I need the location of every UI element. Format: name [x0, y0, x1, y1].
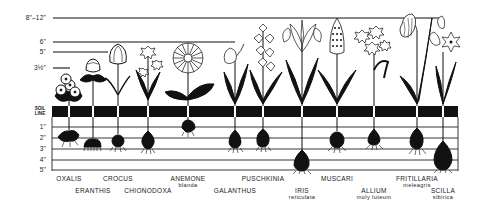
plant-species: reticulata — [289, 194, 316, 200]
fritillaria-flower-icon — [400, 14, 432, 106]
soil-line-label: SOIL LINE — [30, 106, 50, 117]
plant-name: FRITILLARIA — [396, 175, 438, 182]
galanthus-bulb-icon — [229, 130, 241, 148]
eranthis-flower-icon — [80, 59, 106, 106]
height-label-8-12: 8"–12" — [0, 15, 46, 22]
plant-name: CHIONODOXA — [124, 187, 171, 194]
soil-band — [52, 106, 458, 117]
allium-flower-icon — [354, 26, 391, 106]
anemone-bulb-icon — [182, 120, 195, 132]
plant-name: SCILLA — [431, 187, 455, 194]
iris-flower-icon — [283, 20, 322, 106]
puschkinia-bulb-icon — [257, 129, 269, 147]
plant-name: PUSCHKINIA — [242, 175, 285, 182]
plant-name: OXALIS — [56, 175, 81, 182]
height-label-5: 5" — [0, 49, 46, 56]
soil-label-line2: LINE — [35, 111, 45, 116]
plant-label-iris: IRIS reticulata — [289, 187, 316, 200]
plant-label-scilla: SCILLA sibirica — [431, 187, 455, 200]
plant-label-puschkinia: PUSCHKINIA — [242, 175, 285, 182]
plant-species: blanda — [171, 182, 206, 188]
plants-above-ground — [55, 14, 460, 106]
plant-name: CROCUS — [103, 175, 133, 182]
bulb-planting-diagram: 8"–12" 6" 5" 3½" SOIL LINE 1" 2" 3" 4" 5… — [0, 0, 496, 210]
muscari-flower-icon — [318, 18, 356, 106]
height-label-3-5: 3½" — [0, 65, 46, 72]
plant-species: sibirica — [431, 194, 455, 200]
soil-label-line1: SOIL — [35, 106, 46, 111]
plant-name: ERANTHIS — [75, 187, 110, 194]
galanthus-flower-icon — [224, 44, 248, 106]
puschkinia-flower-icon — [250, 24, 282, 106]
plant-label-eranthis: ERANTHIS — [75, 187, 110, 194]
plant-label-chionodoxa: CHIONODOXA — [124, 187, 171, 194]
bulbs — [58, 117, 452, 174]
fritillaria-bulb-icon — [410, 128, 423, 149]
anemone-flower-icon — [165, 43, 214, 106]
scilla-bulb-icon — [434, 141, 452, 170]
plant-label-anemone: ANEMONE blanda — [171, 175, 206, 188]
plant-name: ALLIUM — [361, 187, 386, 194]
eranthis-bulb-icon — [84, 139, 101, 147]
allium-bulb-icon — [368, 129, 380, 145]
scilla-flower-icon — [430, 16, 461, 106]
crocus-flower-icon — [105, 44, 130, 106]
height-label-6: 6" — [0, 39, 46, 46]
oxalis-bulb-icon — [58, 131, 79, 142]
plant-name: MUSCARI — [321, 175, 353, 182]
muscari-bulb-icon — [330, 132, 344, 148]
oxalis-flower-icon — [55, 74, 82, 106]
plant-label-allium: ALLIUM moly luteum — [357, 187, 392, 200]
depth-label-4: 4" — [0, 157, 46, 164]
plant-label-galanthus: GALANTHUS — [214, 187, 256, 194]
crocus-bulb-icon — [112, 135, 124, 147]
plant-label-crocus: CROCUS — [103, 175, 133, 182]
iris-bulb-icon — [294, 150, 309, 171]
chionodoxa-bulb-icon — [142, 131, 154, 149]
plant-name: GALANTHUS — [214, 187, 256, 194]
depth-label-2: 2" — [0, 135, 46, 142]
depth-label-5: 5" — [0, 167, 46, 174]
depth-label-3: 3" — [0, 146, 46, 153]
plant-name: ANEMONE — [171, 175, 206, 182]
plant-label-oxalis: OXALIS — [56, 175, 81, 182]
depth-label-1: 1" — [0, 124, 46, 131]
plant-species: moly luteum — [357, 194, 392, 200]
plant-name: IRIS — [295, 187, 309, 194]
chionodoxa-flower-icon — [136, 46, 163, 106]
plant-label-muscari: MUSCARI — [321, 175, 353, 182]
